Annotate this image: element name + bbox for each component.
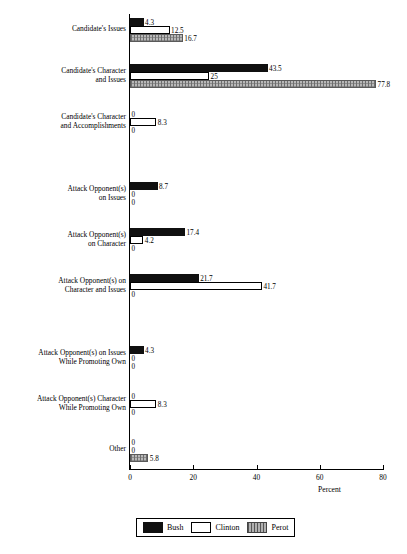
legend-label-bush: Bush bbox=[167, 523, 183, 532]
bar-bush bbox=[130, 274, 199, 282]
bar-perot bbox=[130, 34, 183, 42]
bar-clinton bbox=[130, 72, 209, 80]
category-label: Other bbox=[0, 444, 126, 453]
bar-value-label: 77.8 bbox=[378, 81, 391, 89]
x-axis-tick-label: 20 bbox=[178, 473, 208, 482]
bar-value-label: 8.3 bbox=[158, 401, 167, 409]
bar-bush bbox=[130, 346, 144, 354]
legend-label-clinton: Clinton bbox=[215, 523, 239, 532]
legend-item-bush: Bush bbox=[143, 522, 183, 533]
black-square-icon bbox=[143, 522, 163, 533]
bar-value-label: 8.7 bbox=[159, 183, 168, 191]
x-axis-tick bbox=[320, 465, 321, 470]
white-square-icon bbox=[191, 522, 211, 533]
x-axis-tick bbox=[257, 465, 258, 470]
x-axis-title-text: Percent bbox=[318, 485, 341, 494]
legend-item-clinton: Clinton bbox=[191, 522, 239, 533]
category-label: Candidate's Character and Issues bbox=[0, 66, 126, 84]
bar-bush bbox=[130, 64, 268, 72]
bar-bush bbox=[130, 182, 158, 190]
bar-clinton bbox=[130, 118, 156, 126]
x-axis-title: Percent bbox=[0, 485, 407, 494]
bar-clinton bbox=[130, 282, 262, 290]
bar-value-label: 17.4 bbox=[187, 229, 200, 237]
hatched-square-icon bbox=[247, 522, 267, 533]
x-axis-tick bbox=[383, 465, 384, 470]
bar-value-label: 0 bbox=[132, 363, 136, 371]
bar-value-label: 16.7 bbox=[184, 35, 197, 43]
x-axis-tick bbox=[130, 465, 131, 470]
bar-value-label: 0 bbox=[132, 199, 136, 207]
category-label: Attack Opponent(s) Character While Promo… bbox=[0, 394, 126, 412]
category-label: Candidate's Character and Accomplishment… bbox=[0, 112, 126, 130]
bar-value-label: 4.3 bbox=[145, 347, 154, 355]
bar-clinton bbox=[130, 26, 170, 34]
category-label: Attack Opponent(s) on Issues While Promo… bbox=[0, 348, 126, 366]
bar-value-label: 4.2 bbox=[145, 237, 154, 245]
legend-label-perot: Perot bbox=[271, 523, 288, 532]
bar-value-label: 5.8 bbox=[150, 455, 159, 463]
category-label: Attack Opponent(s) on Issues bbox=[0, 184, 126, 202]
bar-value-label: 0 bbox=[132, 409, 136, 417]
bar-value-label: 0 bbox=[132, 245, 136, 253]
bar-value-label: 0 bbox=[132, 127, 136, 135]
bar-value-label: 0 bbox=[132, 355, 136, 363]
chart-legend: Bush Clinton Perot bbox=[136, 518, 295, 537]
bar-chart: 020406080Candidate's Issues4.312.516.7Ca… bbox=[0, 0, 407, 554]
bar-clinton bbox=[130, 400, 156, 408]
x-axis-tick bbox=[193, 465, 194, 470]
category-label: Attack Opponent(s) on Character bbox=[0, 230, 126, 248]
bar-clinton bbox=[130, 236, 143, 244]
bar-value-label: 0 bbox=[132, 291, 136, 299]
x-axis-tick-label: 0 bbox=[115, 473, 145, 482]
bar-value-label: 43.5 bbox=[269, 65, 282, 73]
plot-area: 020406080Candidate's Issues4.312.516.7Ca… bbox=[0, 0, 407, 554]
category-label: Attack Opponent(s) on Character and Issu… bbox=[0, 276, 126, 294]
bar-value-label: 0 bbox=[132, 439, 136, 447]
bar-bush bbox=[130, 18, 144, 26]
bar-value-label: 41.7 bbox=[263, 283, 276, 291]
bar-bush bbox=[130, 228, 185, 236]
x-axis-tick-label: 40 bbox=[242, 473, 272, 482]
x-axis-tick-label: 80 bbox=[368, 473, 398, 482]
category-label: Candidate's Issues bbox=[0, 24, 126, 33]
bar-perot bbox=[130, 80, 376, 88]
legend-item-perot: Perot bbox=[247, 522, 288, 533]
bar-value-label: 8.3 bbox=[158, 119, 167, 127]
bar-perot bbox=[130, 454, 148, 462]
bar-value-label: 0 bbox=[132, 191, 136, 199]
x-axis-tick-label: 60 bbox=[305, 473, 335, 482]
